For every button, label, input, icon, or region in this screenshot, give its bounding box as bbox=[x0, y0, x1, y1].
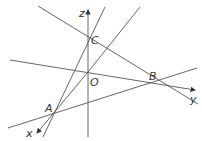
z-axis-label: z bbox=[78, 7, 85, 20]
geometry-diagram: z y x C O B A bbox=[0, 0, 202, 141]
line-ab bbox=[8, 68, 197, 128]
line-cb bbox=[38, 6, 198, 104]
point-c-label: C bbox=[91, 34, 99, 47]
point-a-label: A bbox=[44, 102, 53, 115]
line-ac bbox=[43, 7, 105, 137]
point-b-label: B bbox=[149, 70, 157, 83]
x-axis-label: x bbox=[25, 127, 33, 140]
point-o-label: O bbox=[90, 76, 99, 89]
y-axis-label: y bbox=[189, 93, 197, 106]
